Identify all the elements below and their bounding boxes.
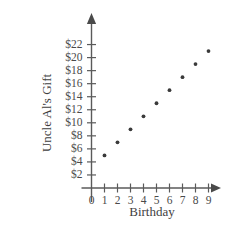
data-point xyxy=(142,114,146,118)
x-tick-label: 7 xyxy=(180,194,186,206)
data-point-series xyxy=(103,49,211,157)
x-tick-label: 2 xyxy=(115,194,121,206)
y-tick-label: $8 xyxy=(71,129,83,141)
y-axis-arrowhead xyxy=(87,13,96,24)
data-point xyxy=(129,127,133,131)
x-tick-label: 9 xyxy=(206,194,212,206)
y-axis-title: Uncle Al's Gift xyxy=(39,74,54,153)
y-tick-label: $14 xyxy=(65,90,83,102)
x-tick-label: 0 xyxy=(89,194,95,206)
data-point xyxy=(155,101,159,105)
y-tick-label: $12 xyxy=(65,103,83,115)
x-axis-arrowhead xyxy=(211,183,221,192)
x-axis-title: Birthday xyxy=(129,204,175,219)
y-tick-label: $2 xyxy=(71,168,83,180)
data-point xyxy=(194,62,198,66)
data-point xyxy=(168,88,172,92)
y-axis-group: $2$4$6$8$10$12$14$16$18$20$22 Uncle Al's… xyxy=(39,13,96,202)
y-tick-label: $22 xyxy=(65,38,83,50)
scatter-chart: $2$4$6$8$10$12$14$16$18$20$22 Uncle Al's… xyxy=(0,0,239,239)
y-axis-tick-labels: $2$4$6$8$10$12$14$16$18$20$22 xyxy=(65,38,83,180)
data-point xyxy=(116,140,120,144)
data-point xyxy=(207,49,211,53)
chart-canvas: $2$4$6$8$10$12$14$16$18$20$22 Uncle Al's… xyxy=(0,0,239,239)
data-point xyxy=(103,154,107,158)
y-tick-label: $18 xyxy=(65,64,83,76)
y-tick-label: $20 xyxy=(65,51,83,63)
x-axis-group: 0123456789 Birthday xyxy=(82,183,222,219)
y-tick-label: $4 xyxy=(71,155,83,167)
x-tick-label: 1 xyxy=(102,194,108,206)
data-point xyxy=(181,75,185,79)
y-tick-label: $10 xyxy=(65,116,83,128)
x-tick-label: 8 xyxy=(193,194,199,206)
y-tick-label: $16 xyxy=(65,77,83,89)
y-tick-label: $6 xyxy=(71,142,83,154)
